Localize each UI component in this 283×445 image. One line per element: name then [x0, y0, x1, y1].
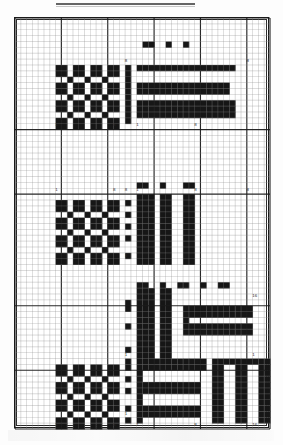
- grid-cell-filled: [96, 253, 102, 259]
- grid-cell-filled: [218, 306, 224, 312]
- grid-cell-filled: [177, 359, 183, 365]
- grid-cell-filled: [160, 359, 166, 365]
- grid-cell-filled: [114, 235, 120, 241]
- axis-tick-label-8: 8: [125, 188, 127, 192]
- grid-cell-filled: [90, 118, 96, 124]
- scan-smudge: [8, 430, 274, 441]
- grid-cell-filled: [247, 359, 253, 365]
- grid-cell-filled: [177, 88, 183, 94]
- grid-cell-filled: [183, 241, 189, 247]
- grid-cell-filled: [154, 112, 160, 118]
- grid-cell-filled: [218, 106, 224, 112]
- grid-cell-filled: [137, 388, 143, 394]
- grid-cell-filled: [160, 194, 166, 200]
- grid-cell-filled: [90, 106, 96, 112]
- grid-cell-filled: [218, 88, 224, 94]
- grid-cell-filled: [85, 94, 91, 100]
- plot-frame: [14, 17, 269, 428]
- grid-cell-filled: [114, 382, 120, 388]
- grid-cell-filled: [166, 106, 172, 112]
- grid-cell-filled: [183, 224, 189, 230]
- grid-cell-filled: [218, 65, 224, 71]
- grid-cell-filled: [235, 388, 241, 394]
- grid-cell-filled: [143, 306, 149, 312]
- grid-cell-filled: [189, 359, 195, 365]
- grid-cell-filled: [96, 406, 102, 412]
- grid-cell-filled: [160, 329, 166, 335]
- grid-cell-filled: [200, 282, 206, 288]
- grid-cell-filled: [171, 411, 177, 417]
- grid-cell-filled: [154, 388, 160, 394]
- grid-cell-filled: [218, 323, 224, 329]
- grid-cell-filled: [137, 100, 143, 106]
- grid-cell-filled: [143, 200, 149, 206]
- grid-cell-filled: [137, 306, 143, 312]
- grid-cell-filled: [235, 400, 241, 406]
- grid-cell-filled: [189, 235, 195, 241]
- grid-cell-filled: [160, 294, 166, 300]
- grid-cell-filled: [258, 406, 264, 412]
- grid-cell-filled: [189, 323, 195, 329]
- grid-cell-filled: [177, 406, 183, 412]
- grid-cell-filled: [212, 382, 218, 388]
- grid-cell-filled: [90, 253, 96, 259]
- grid-cell-filled: [61, 71, 67, 77]
- axis-tick-label-8: 8: [125, 59, 127, 63]
- grid-cell-filled: [79, 100, 85, 106]
- grid-cell-filled: [143, 253, 149, 259]
- grid-cell-filled: [125, 65, 131, 71]
- grid-cell-filled: [212, 370, 218, 376]
- grid-cell-filled: [79, 83, 85, 89]
- grid-cell-filled: [114, 100, 120, 106]
- grid-cell-filled: [183, 41, 189, 47]
- grid-cell-filled: [125, 71, 131, 77]
- grid-cell-filled: [247, 306, 253, 312]
- grid-cell-filled: [143, 347, 149, 353]
- grid-cell-filled: [85, 112, 91, 118]
- grid-cell-filled: [137, 247, 143, 253]
- grid-cell-filled: [90, 406, 96, 412]
- grid-cell-filled: [143, 83, 149, 89]
- grid-cell-filled: [258, 359, 264, 365]
- grid-cell-filled: [189, 200, 195, 206]
- grid-cell-filled: [61, 417, 67, 423]
- grid-cell-filled: [154, 83, 160, 89]
- grid-cell-filled: [189, 312, 195, 318]
- grid-cell-filled: [108, 224, 114, 230]
- grid-cell-filled: [183, 212, 189, 218]
- grid-cell-filled: [137, 288, 143, 294]
- grid-cell-filled: [73, 259, 79, 265]
- grid-cell-filled: [73, 224, 79, 230]
- grid-cell-filled: [235, 312, 241, 318]
- grid-cell-filled: [137, 382, 143, 388]
- grid-cell-filled: [166, 353, 172, 359]
- grid-cell-filled: [61, 382, 67, 388]
- grid-cell-filled: [200, 312, 206, 318]
- grid-cell-filled: [171, 83, 177, 89]
- grid-cell-filled: [96, 83, 102, 89]
- grid-cell-filled: [189, 329, 195, 335]
- grid-cell-filled: [218, 112, 224, 118]
- grid-cell-filled: [85, 212, 91, 218]
- grid-cell-filled: [73, 65, 79, 71]
- grid-cell-filled: [183, 206, 189, 212]
- grid-cell-filled: [137, 394, 143, 400]
- grid-cell-filled: [258, 411, 264, 417]
- grid-cell-filled: [177, 106, 183, 112]
- grid-cell-filled: [229, 306, 235, 312]
- title-rule-shadow: [56, 6, 195, 7]
- grid-cell-filled: [224, 88, 230, 94]
- grid-cell-filled: [166, 200, 172, 206]
- grid-cell-filled: [96, 206, 102, 212]
- grid-cell-filled: [224, 329, 230, 335]
- grid-cell-filled: [200, 329, 206, 335]
- grid-cell-filled: [137, 83, 143, 89]
- grid-cell-filled: [79, 400, 85, 406]
- grid-cell-filled: [125, 88, 131, 94]
- grid-cell-filled: [143, 282, 149, 288]
- grid-cell-filled: [183, 218, 189, 224]
- grid-cell-filled: [90, 88, 96, 94]
- grid-cell-filled: [218, 400, 224, 406]
- grid-cell-filled: [67, 247, 73, 253]
- grid-cell-filled: [137, 235, 143, 241]
